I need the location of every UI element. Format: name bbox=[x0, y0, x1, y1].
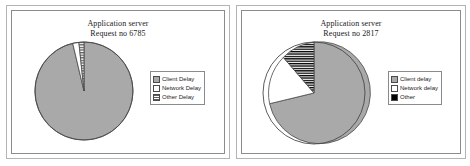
legend-item-network-delay: Network delay bbox=[391, 84, 438, 92]
chart-title-left-line2: Request no 6785 bbox=[12, 29, 224, 39]
chart-panel-left-inner: Application server Request no 6785 bbox=[11, 10, 225, 154]
legend-swatch-network-delay-icon bbox=[153, 85, 160, 92]
legend-item-client-delay: Client Delay bbox=[153, 75, 201, 83]
legend-left: Client Delay Network Delay Other Delay bbox=[150, 71, 205, 105]
legend-item-client-delay: Client delay bbox=[391, 75, 438, 83]
chart-panel-left: Application server Request no 6785 bbox=[6, 5, 230, 159]
pie-chart-left bbox=[32, 39, 136, 143]
legend-label-network-delay: Network Delay bbox=[162, 85, 201, 92]
legend-swatch-network-delay-icon bbox=[391, 85, 398, 92]
legend-label-other: Other bbox=[400, 94, 415, 101]
pie-chart-right bbox=[260, 39, 368, 147]
chart-title-left-line1: Application server bbox=[12, 19, 224, 29]
chart-title-right: Application server Request no 2817 bbox=[242, 19, 460, 38]
legend-swatch-other-delay-icon bbox=[153, 94, 160, 101]
pie-svg-right bbox=[260, 39, 368, 147]
chart-title-right-line1: Application server bbox=[242, 19, 460, 29]
chart-title-right-line2: Request no 2817 bbox=[242, 29, 460, 39]
legend-swatch-client-delay-icon bbox=[153, 76, 160, 83]
chart-panel-right: Application server Request no 2817 bbox=[236, 5, 466, 159]
legend-label-network-delay: Network delay bbox=[400, 85, 438, 92]
legend-label-client-delay: Client delay bbox=[400, 76, 431, 83]
figure-canvas: Application server Request no 6785 bbox=[0, 0, 470, 166]
chart-panel-right-inner: Application server Request no 2817 bbox=[241, 10, 461, 154]
chart-title-left: Application server Request no 6785 bbox=[12, 19, 224, 38]
legend-swatch-client-delay-icon bbox=[391, 76, 398, 83]
plot-area-right: Application server Request no 2817 bbox=[242, 11, 460, 153]
legend-right: Client delay Network delay Other bbox=[388, 71, 442, 105]
legend-item-network-delay: Network Delay bbox=[153, 84, 201, 92]
legend-label-client-delay: Client Delay bbox=[162, 76, 194, 83]
plot-area-left: Application server Request no 6785 bbox=[12, 11, 224, 153]
legend-item-other: Other bbox=[391, 93, 438, 101]
legend-label-other-delay: Other Delay bbox=[162, 94, 194, 101]
legend-swatch-other-icon bbox=[391, 94, 398, 101]
legend-item-other-delay: Other Delay bbox=[153, 93, 201, 101]
pie-svg-left bbox=[32, 39, 136, 143]
